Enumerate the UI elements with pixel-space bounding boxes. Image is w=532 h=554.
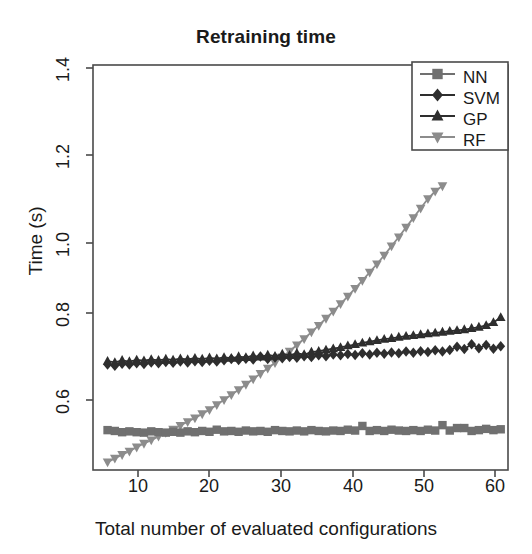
data-point-GP — [234, 351, 244, 360]
data-point-NN — [256, 427, 264, 435]
data-point-NN — [329, 426, 337, 434]
data-point-SVM — [424, 347, 433, 358]
legend-marker-NN — [432, 69, 442, 79]
data-point-NN — [249, 427, 257, 435]
data-point-NN — [293, 426, 301, 434]
x-axis-ticks — [138, 470, 495, 477]
data-point-NN — [315, 427, 323, 435]
data-point-NN — [497, 425, 505, 433]
data-point-NN — [322, 427, 330, 435]
data-point-NN — [336, 427, 344, 435]
data-point-NN — [264, 428, 272, 436]
data-point-SVM — [387, 347, 396, 358]
data-point-NN — [227, 427, 235, 435]
data-point-GP — [132, 355, 142, 364]
data-point-RF — [234, 386, 244, 395]
data-point-SVM — [474, 343, 483, 354]
data-point-SVM — [402, 346, 411, 357]
data-point-NN — [365, 427, 373, 435]
data-point-NN — [373, 426, 381, 434]
series-line-RF — [108, 186, 443, 462]
data-point-NN — [344, 426, 352, 434]
data-point-SVM — [467, 339, 476, 350]
data-point-NN — [103, 426, 111, 434]
data-point-GP — [161, 354, 171, 363]
data-point-NN — [132, 428, 140, 436]
data-point-SVM — [373, 348, 382, 359]
data-point-GP — [248, 351, 258, 360]
data-point-NN — [489, 426, 497, 434]
data-point-NN — [453, 424, 461, 432]
data-point-SVM — [365, 349, 374, 360]
data-point-GP — [292, 348, 302, 357]
data-point-GP — [489, 317, 499, 326]
data-point-SVM — [438, 346, 447, 357]
data-point-SVM — [358, 348, 367, 359]
data-point-RF — [219, 396, 229, 405]
data-point-NN — [460, 424, 468, 432]
data-point-GP — [146, 354, 156, 363]
y-axis-ticks — [86, 68, 93, 400]
data-point-NN — [169, 428, 177, 436]
data-point-SVM — [380, 348, 389, 359]
legend-label-gp: GP — [463, 110, 488, 130]
data-point-NN — [162, 428, 170, 436]
legend-label-nn: NN — [463, 68, 488, 88]
data-point-RF — [212, 401, 222, 410]
data-point-GP — [205, 353, 215, 362]
data-point-NN — [242, 426, 250, 434]
data-point-SVM — [496, 341, 505, 352]
data-point-NN — [395, 426, 403, 434]
legend-label-svm: SVM — [463, 89, 500, 109]
data-point-RF — [248, 375, 258, 384]
data-point-SVM — [453, 341, 462, 352]
data-point-SVM — [394, 348, 403, 359]
data-point-SVM — [431, 345, 440, 356]
data-point-NN — [358, 422, 366, 430]
data-point-RF — [438, 182, 448, 191]
data-point-SVM — [416, 346, 425, 357]
data-point-SVM — [460, 344, 469, 355]
data-point-SVM — [409, 348, 418, 359]
data-point-GP — [263, 350, 273, 359]
data-point-NN — [154, 428, 162, 436]
data-point-NN — [285, 427, 293, 435]
data-point-GP — [496, 312, 506, 321]
data-point-SVM — [351, 350, 360, 361]
data-point-RF — [263, 365, 273, 374]
data-point-RF — [241, 381, 251, 390]
data-point-GP — [190, 353, 200, 362]
data-point-NN — [438, 421, 446, 429]
data-point-NN — [140, 428, 148, 436]
data-point-NN — [147, 427, 155, 435]
data-point-NN — [183, 427, 191, 435]
legend-label-rf: RF — [463, 131, 486, 151]
data-point-NN — [234, 428, 242, 436]
data-point-NN — [424, 426, 432, 434]
data-point-NN — [482, 425, 490, 433]
data-point-GP — [176, 353, 186, 362]
data-point-RF — [256, 370, 266, 379]
data-point-NN — [271, 426, 279, 434]
data-point-NN — [431, 426, 439, 434]
series-NN — [103, 421, 505, 437]
data-point-NN — [380, 427, 388, 435]
data-point-NN — [467, 427, 475, 435]
data-point-NN — [387, 426, 395, 434]
data-point-NN — [351, 426, 359, 434]
data-point-NN — [213, 426, 221, 434]
data-point-RF — [103, 459, 113, 468]
data-point-NN — [475, 426, 483, 434]
data-point-NN — [205, 428, 213, 436]
data-point-NN — [446, 426, 454, 434]
data-point-RF — [227, 391, 237, 400]
data-point-NN — [409, 426, 417, 434]
data-point-NN — [307, 426, 315, 434]
data-point-NN — [278, 427, 286, 435]
data-point-SVM — [445, 345, 454, 356]
plot-canvas — [0, 0, 532, 554]
series-RF — [103, 182, 448, 467]
data-point-NN — [118, 428, 126, 436]
data-point-NN — [176, 428, 184, 436]
data-point-GP — [117, 355, 127, 364]
